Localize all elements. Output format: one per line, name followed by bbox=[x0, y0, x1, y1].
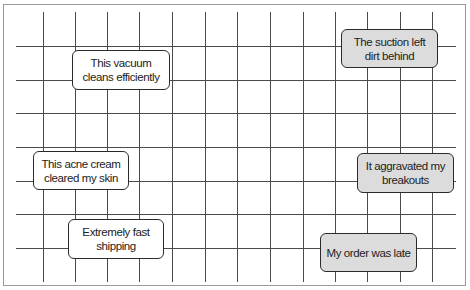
card-text: This acne cream cleared my skin bbox=[38, 157, 124, 185]
card-text: The suction left dirt behind bbox=[346, 35, 433, 63]
card-text: It aggravated my breakouts bbox=[362, 159, 449, 187]
card-negative-breakouts: It aggravated my breakouts bbox=[357, 153, 454, 193]
card-positive-vacuum: This vacuum cleans efficiently bbox=[72, 50, 170, 90]
card-text: This vacuum cleans efficiently bbox=[77, 56, 165, 84]
grid-hline bbox=[16, 214, 456, 215]
card-negative-late-order: My order was late bbox=[320, 233, 417, 272]
card-negative-suction: The suction left dirt behind bbox=[341, 29, 438, 68]
grid-hline bbox=[16, 113, 456, 114]
grid-hline bbox=[16, 147, 456, 148]
card-positive-shipping: Extremely fast shipping bbox=[68, 219, 164, 259]
card-text: My order was late bbox=[327, 246, 411, 260]
card-text: Extremely fast shipping bbox=[73, 225, 159, 253]
card-positive-acne-cream: This acne cream cleared my skin bbox=[33, 151, 129, 190]
